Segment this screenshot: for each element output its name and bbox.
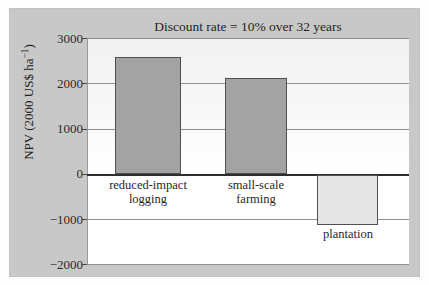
tick-mark-neg2000	[82, 264, 87, 265]
y-axis-title-main: NPV (2000 US$ ha	[21, 59, 36, 160]
tick-mark-2000	[82, 83, 87, 84]
y-axis-tick-labels: 3000 2000 1000 0 −1000 −2000 NPV (2000 U…	[9, 8, 83, 285]
y-tick-label-neg1000: −1000	[15, 213, 83, 226]
figure-panel: Discount rate = 10% over 32 years 3000 2…	[9, 8, 420, 277]
y-axis-title-exponent: −1	[20, 49, 30, 59]
tick-mark-neg1000	[82, 219, 87, 220]
figure-container: Discount rate = 10% over 32 years 3000 2…	[0, 0, 429, 285]
y-axis-line	[87, 38, 88, 265]
tick-mark-0	[82, 174, 87, 175]
gridline-neg2000	[87, 264, 409, 265]
y-tick-label-neg2000: −2000	[15, 258, 83, 271]
bar-label-reduced-impact-logging: reduced-impact logging	[97, 178, 199, 206]
bar-label-plantation: plantation	[309, 227, 387, 241]
plot-area: reduced-impact logging small-scale farmi…	[87, 38, 409, 265]
bar-plantation[interactable]	[317, 175, 378, 225]
gridline-3000	[87, 38, 409, 39]
bar-reduced-impact-logging[interactable]	[115, 57, 181, 174]
y-axis-title-tail: )	[21, 44, 36, 48]
y-axis-title: NPV (2000 US$ ha−1)	[21, 12, 37, 192]
bar-small-scale-farming[interactable]	[225, 78, 287, 174]
tick-mark-1000	[82, 129, 87, 130]
tick-mark-3000	[82, 38, 87, 39]
bar-label-small-scale-farming: small-scale farming	[209, 178, 303, 206]
chart-title: Discount rate = 10% over 32 years	[87, 19, 409, 35]
